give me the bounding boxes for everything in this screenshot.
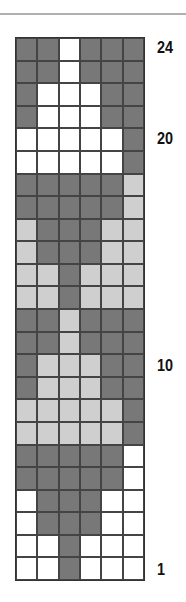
row-label: 1 [157, 560, 165, 580]
grid-cell [59, 557, 80, 580]
grid-cell [123, 535, 144, 558]
grid-cell [123, 61, 144, 84]
grid-cell [37, 557, 58, 580]
grid-cell [37, 151, 58, 174]
grid-cell [101, 332, 122, 355]
grid-cell [101, 377, 122, 400]
grid-cell [16, 467, 37, 490]
grid-cell [80, 512, 101, 535]
grid-cell [59, 286, 80, 309]
grid-cell [123, 377, 144, 400]
grid-cell [123, 151, 144, 174]
grid-cell [80, 61, 101, 84]
grid-cell [101, 490, 122, 513]
row-label: 20 [157, 129, 173, 149]
grid-cell [37, 332, 58, 355]
grid-cell [80, 264, 101, 287]
grid-cell [59, 219, 80, 242]
grid-cell [59, 422, 80, 445]
grid-cell [80, 38, 101, 61]
grid-cell [101, 445, 122, 468]
grid-cell [80, 467, 101, 490]
grid-cell [37, 354, 58, 377]
grid-cell [37, 241, 58, 264]
grid-cell [59, 490, 80, 513]
grid-cell [16, 286, 37, 309]
grid-cell [37, 83, 58, 106]
grid-cell [123, 128, 144, 151]
grid-cell [16, 128, 37, 151]
grid-cell [101, 354, 122, 377]
grid-cell [16, 106, 37, 129]
grid-cell [101, 422, 122, 445]
grid-cell [16, 377, 37, 400]
grid-cell [37, 106, 58, 129]
grid-cell [37, 445, 58, 468]
grid-cell [123, 557, 144, 580]
grid-cell [16, 422, 37, 445]
grid-cell [59, 264, 80, 287]
knitting-chart-grid [15, 37, 145, 581]
grid-cell [101, 38, 122, 61]
grid-cell [80, 151, 101, 174]
grid-cell [123, 241, 144, 264]
grid-cell [101, 557, 122, 580]
grid-cell [101, 264, 122, 287]
grid-cell [80, 286, 101, 309]
grid-cell [37, 422, 58, 445]
grid-cell [59, 61, 80, 84]
grid-cell [37, 219, 58, 242]
grid-cell [16, 490, 37, 513]
grid-cell [59, 106, 80, 129]
grid-cell [16, 557, 37, 580]
grid-cell [80, 128, 101, 151]
grid-cell [80, 354, 101, 377]
grid-cell [59, 174, 80, 197]
grid-cell [123, 467, 144, 490]
grid-cell [80, 422, 101, 445]
grid-cell [80, 106, 101, 129]
grid-cell [101, 219, 122, 242]
grid-cell [80, 174, 101, 197]
grid-cell [16, 83, 37, 106]
grid-cell [59, 399, 80, 422]
grid-cell [59, 377, 80, 400]
top-divider [0, 13, 186, 15]
grid-cell [37, 264, 58, 287]
grid-cell [16, 354, 37, 377]
grid-cell [123, 512, 144, 535]
grid-cell [101, 286, 122, 309]
grid-cell [101, 106, 122, 129]
grid-cell [101, 128, 122, 151]
grid-cell [37, 174, 58, 197]
grid-cell [59, 332, 80, 355]
grid-cell [16, 38, 37, 61]
grid-cell [101, 83, 122, 106]
grid-cell [16, 399, 37, 422]
grid-cell [16, 445, 37, 468]
grid-cell [37, 490, 58, 513]
grid-cell [16, 151, 37, 174]
grid-cell [59, 241, 80, 264]
grid-cell [123, 196, 144, 219]
grid-cell [101, 61, 122, 84]
grid-cell [123, 354, 144, 377]
grid-cell [59, 309, 80, 332]
grid-cell [101, 309, 122, 332]
grid-cell [80, 535, 101, 558]
grid-cell [16, 241, 37, 264]
grid-cell [101, 151, 122, 174]
grid-cell [123, 445, 144, 468]
grid-cell [123, 83, 144, 106]
grid-cell [59, 128, 80, 151]
grid-cell [80, 309, 101, 332]
grid-cell [123, 309, 144, 332]
grid-cell [123, 286, 144, 309]
grid-cell [101, 467, 122, 490]
grid-cell [59, 467, 80, 490]
grid-cell [37, 61, 58, 84]
grid-cell [59, 445, 80, 468]
grid-cell [123, 174, 144, 197]
grid-cell [80, 241, 101, 264]
grid-cell [16, 264, 37, 287]
